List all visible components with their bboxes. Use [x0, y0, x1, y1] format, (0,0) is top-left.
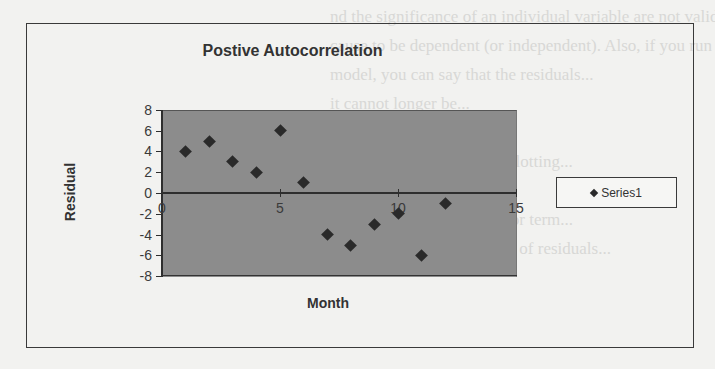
- y-tick-label: -4: [122, 228, 152, 242]
- chart-title: Postive Autocorrelation: [0, 42, 585, 60]
- x-tick: [398, 189, 399, 197]
- y-axis-title: Residual: [62, 157, 78, 227]
- x-tick-label: 5: [265, 201, 295, 215]
- y-tick: [156, 193, 162, 194]
- y-tick: [156, 255, 162, 256]
- x-tick-label: 15: [501, 201, 531, 215]
- x-axis-line: [161, 192, 517, 194]
- x-tick: [516, 189, 517, 197]
- y-tick: [156, 151, 162, 152]
- y-tick: [156, 235, 162, 236]
- y-tick-label: 8: [122, 103, 152, 117]
- y-tick-label: 4: [122, 144, 152, 158]
- y-tick: [156, 110, 162, 111]
- x-tick-label: 0: [147, 201, 177, 215]
- y-tick-label: 0: [122, 186, 152, 200]
- legend: Series1: [556, 177, 677, 208]
- y-tick-label: 2: [122, 165, 152, 179]
- legend-label: Series1: [601, 186, 642, 200]
- y-tick-label: 6: [122, 124, 152, 138]
- y-tick: [156, 276, 162, 277]
- y-tick-label: -8: [122, 269, 152, 283]
- y-tick-label: -6: [122, 248, 152, 262]
- y-tick: [156, 172, 162, 173]
- diamond-marker-icon: [590, 188, 598, 196]
- x-axis-title: Month: [288, 295, 368, 311]
- plot-bottom-border: [161, 275, 517, 276]
- x-tick: [280, 189, 281, 197]
- y-tick: [156, 131, 162, 132]
